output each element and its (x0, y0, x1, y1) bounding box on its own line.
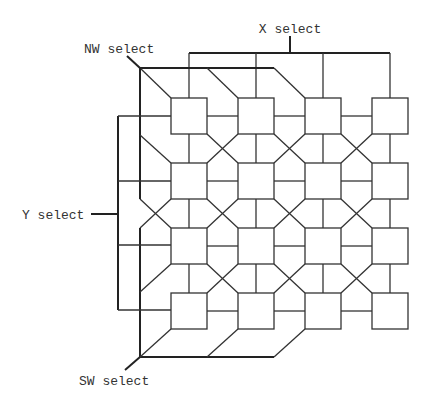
cell-r2-c2 (305, 228, 341, 264)
cell-r1-c1 (238, 163, 274, 199)
sw-select-bus (125, 329, 305, 370)
cell-r0-c1 (238, 98, 274, 134)
cell-r2-c3 (372, 228, 408, 264)
cell-r0-c0 (171, 98, 207, 134)
cell-r3-c3 (372, 293, 408, 329)
cell-r1-c0 (171, 163, 207, 199)
x-select-label: X select (259, 22, 321, 37)
cell-r0-c3 (372, 98, 408, 134)
diagonal-links (207, 134, 372, 293)
y-select-bus (91, 116, 171, 310)
cell-r3-c1 (238, 293, 274, 329)
cell-r1-c2 (305, 163, 341, 199)
cell-r1-c3 (372, 163, 408, 199)
cell-r0-c2 (305, 98, 341, 134)
cell-r2-c1 (238, 228, 274, 264)
cell-r3-c0 (171, 293, 207, 329)
sw-select-label: SW select (79, 374, 149, 389)
cell-array-diagram: X select NW select Y select SW select (0, 0, 427, 402)
cell-r2-c0 (171, 228, 207, 264)
y-select-label: Y select (22, 208, 84, 223)
cell-r3-c2 (305, 293, 341, 329)
nw-select-label: NW select (84, 42, 154, 57)
nw-select-bus (127, 56, 305, 357)
